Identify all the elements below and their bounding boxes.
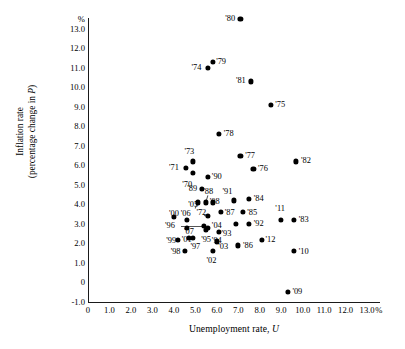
data-point (210, 249, 215, 254)
data-point-label: '75 (275, 101, 285, 109)
data-point-label: '74 (191, 64, 201, 72)
data-point (231, 198, 236, 203)
data-point-label: '71 (169, 164, 179, 172)
data-point-label: '99 (166, 236, 176, 244)
x-tick-label: 0 (86, 306, 90, 315)
data-point-label: '78 (224, 130, 234, 138)
y-axis-title-line2: (percentage change in P) (26, 32, 38, 232)
data-point (234, 221, 239, 226)
data-point (206, 214, 211, 219)
data-point (285, 290, 290, 295)
data-point-label: '08 (210, 198, 220, 206)
data-point-label: '96 (165, 222, 175, 230)
data-point-label: '02 (207, 257, 217, 265)
data-point-label: '91 (223, 188, 233, 196)
data-point-label: '90 (212, 173, 222, 181)
y-axis-title: Inflation rate (percentage change in P) (15, 32, 38, 232)
data-point (219, 210, 224, 215)
data-point (216, 132, 221, 137)
data-point-label: '76 (258, 165, 268, 173)
data-point (240, 210, 245, 215)
data-point (191, 171, 196, 176)
x-axis-line (88, 302, 380, 303)
data-point-label: '98 (171, 248, 181, 256)
data-point-label: '73 (184, 147, 194, 155)
data-point-label: '81 (236, 77, 246, 85)
data-point-label: '03 (218, 243, 228, 251)
data-point (294, 159, 299, 164)
data-point-label: '72 (196, 209, 206, 217)
data-point (268, 102, 273, 107)
data-point (292, 217, 297, 222)
x-axis-unit-label: % (375, 306, 382, 315)
data-point (249, 79, 254, 84)
data-point (206, 174, 211, 179)
data-point (210, 59, 215, 64)
x-tick-label: 7.0 (233, 306, 244, 315)
data-point (246, 221, 251, 226)
y-axis-title-line1: Inflation rate (15, 32, 27, 232)
data-point-label: '95 (201, 235, 211, 243)
x-tick-label: 6.0 (211, 306, 222, 315)
data-point (292, 249, 297, 254)
data-point-label: '86 (243, 242, 253, 250)
data-point-label: '82 (301, 157, 311, 165)
data-point-label: '06 (181, 210, 191, 218)
data-point (238, 153, 243, 158)
data-point-label: '07 (184, 228, 194, 236)
x-tick-label: 1.0 (104, 306, 115, 315)
y-axis-line (88, 18, 89, 303)
data-point-label: '80 (225, 15, 235, 23)
data-point-label: '83 (299, 216, 309, 224)
x-tick-label: 10.0 (295, 306, 310, 315)
data-point-label: '11 (275, 205, 285, 213)
data-point-label: '12 (266, 235, 276, 243)
data-point (236, 243, 241, 248)
data-point (203, 227, 208, 232)
x-axis-title: Unemployment rate, U (88, 323, 380, 334)
data-point-label: '84 (254, 194, 264, 202)
data-point (279, 217, 284, 222)
data-point-label: '93 (222, 229, 232, 237)
data-point-label: '10 (299, 248, 309, 256)
x-tick-label: 3.0 (147, 306, 158, 315)
x-tick-label: 12.0 (338, 306, 353, 315)
x-tick-label: 4.0 (169, 306, 180, 315)
data-point-label: '92 (254, 220, 264, 228)
data-point-label: '00 (169, 210, 179, 218)
data-point (246, 196, 251, 201)
data-point-label: '97 (190, 243, 200, 251)
data-point (176, 237, 181, 242)
data-point-label: '77 (245, 151, 255, 159)
x-tick-label: 9.0 (276, 306, 287, 315)
data-point-label: '79 (216, 58, 226, 66)
x-tick-label: 8.0 (254, 306, 265, 315)
data-point-label: '01 (182, 235, 192, 243)
data-point (238, 16, 243, 21)
data-point-label: '85 (247, 209, 257, 217)
x-tick-label: 5.0 (190, 306, 201, 315)
data-point (259, 237, 264, 242)
x-tick-label: 13.0 (360, 306, 375, 315)
phillips-curve-scatter-chart: 13.012.011.010.09.08.07.06.05.04.03.02.0… (0, 0, 405, 349)
x-tick-label: 11.0 (317, 306, 332, 315)
data-point-label: '09 (292, 288, 302, 296)
x-tick-label: 2.0 (126, 306, 137, 315)
data-point (251, 167, 256, 172)
data-point (182, 249, 187, 254)
data-point-label: '88 (203, 188, 213, 196)
data-point (183, 166, 188, 171)
data-point-label: '87 (225, 209, 235, 217)
data-point (191, 159, 196, 164)
data-point-label: '89 (187, 185, 197, 193)
data-point-label: '04 (212, 222, 222, 230)
data-point (206, 65, 211, 70)
data-point (203, 200, 208, 205)
